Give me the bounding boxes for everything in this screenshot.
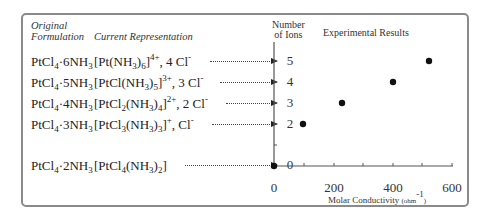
data-point-0 xyxy=(271,163,277,169)
data-point-4 xyxy=(426,58,432,64)
data-point-1 xyxy=(300,121,306,127)
x-axis-label: Molar Conductivity (ohm-1) xyxy=(328,194,426,205)
x-tick-600: 600 xyxy=(442,180,462,196)
x-tick-0: 0 xyxy=(271,180,278,196)
x-axis-label-text: Molar Conductivity xyxy=(328,195,399,205)
data-points xyxy=(271,58,432,169)
x-axis-label-unit: (ohm-1) xyxy=(402,197,427,205)
data-point-3 xyxy=(390,79,396,85)
scatter-plot xyxy=(0,0,491,220)
data-point-2 xyxy=(339,100,345,106)
